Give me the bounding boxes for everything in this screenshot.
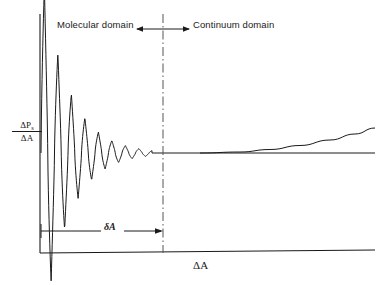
plot-canvas: [0, 0, 381, 285]
molecular-domain-label: Molecular domain: [57, 20, 134, 30]
y-axis-numerator: ΔPs: [12, 120, 42, 132]
axes-group: [40, 14, 375, 253]
data-curves-group: [41, 0, 375, 281]
x-axis-label: ΔA: [193, 260, 209, 271]
y-axis-denominator: ΔA: [12, 132, 42, 143]
x-axis-line: [40, 250, 375, 253]
delta-a-span-label: δA: [104, 222, 116, 232]
delta-a-span-arrowhead-icon: [155, 228, 163, 234]
oscillatory-disjoining-pressure-figure: Molecular domain Continuum domain δA ΔA …: [0, 0, 381, 285]
oscillatory-structural-force-curve: [41, 0, 152, 281]
y-axis-numerator-subscript: s: [31, 124, 34, 131]
y-axis-numerator-text: ΔP: [20, 120, 31, 130]
y-axis-label: ΔPs ΔA: [12, 120, 42, 144]
continuum-domain-arrowhead-icon: [183, 26, 190, 31]
continuum-domain-label: Continuum domain: [193, 20, 274, 30]
continuum-rising-branch-curve: [200, 128, 375, 153]
delta-a-span-arrow-group: [41, 224, 163, 238]
molecular-domain-arrowhead-icon: [136, 26, 143, 31]
